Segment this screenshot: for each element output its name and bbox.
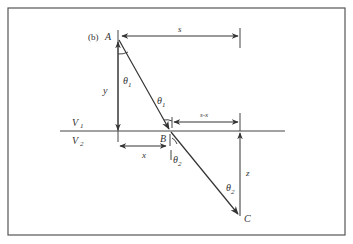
- theta1-label-a: θ1: [123, 75, 131, 89]
- y-label: y: [102, 85, 108, 96]
- theta1-label-b: θ1: [157, 95, 165, 109]
- theta1-arc-b: [164, 120, 172, 121]
- theta2-label-c: θ2: [226, 182, 235, 196]
- point-c-label: C: [244, 213, 251, 224]
- panel-label: (b): [88, 32, 99, 42]
- point-a-label: A: [104, 31, 112, 42]
- s-minus-x-label: s-x: [200, 111, 209, 119]
- point-b-label: B: [160, 133, 166, 144]
- x-label: x: [141, 150, 146, 160]
- z-label: z: [245, 168, 250, 178]
- v1-label: V1: [72, 117, 84, 130]
- refraction-diagram: (b) A B C s y x s-x z θ1 θ1 θ2 θ2 V1 V2: [0, 0, 353, 244]
- refracted-ray: [171, 132, 238, 214]
- theta2-label-b: θ2: [173, 154, 182, 168]
- v2-label: V2: [72, 135, 84, 148]
- s-label: s: [178, 24, 182, 34]
